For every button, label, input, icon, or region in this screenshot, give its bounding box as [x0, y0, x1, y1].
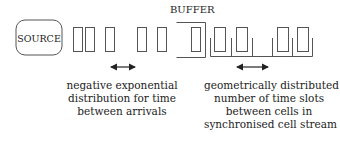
- cell: [86, 28, 95, 52]
- caption-line: synchronised cell stream: [204, 118, 334, 131]
- cell: [215, 28, 226, 52]
- cell: [74, 28, 83, 52]
- caption-line: negative exponential: [62, 79, 182, 92]
- caption-line: geometrically distributed: [204, 79, 334, 92]
- caption-slot-distribution: geometrically distributed number of time…: [204, 79, 334, 131]
- cell: [237, 28, 248, 52]
- arriving-cells: [74, 28, 167, 52]
- buffer-box: [177, 23, 206, 58]
- source-label: SOURCE: [17, 33, 61, 44]
- cell: [158, 28, 167, 52]
- caption-line: between cells in: [204, 105, 334, 118]
- cell: [138, 28, 147, 52]
- slot-stream: [211, 28, 313, 57]
- caption-interarrival: negative exponential distribution for ti…: [62, 79, 182, 118]
- cell: [278, 28, 289, 52]
- cell: [298, 28, 309, 52]
- source-node: SOURCE: [16, 20, 62, 55]
- caption-line: between arrivals: [62, 105, 182, 118]
- caption-line: number of time slots: [204, 92, 334, 105]
- cell: [106, 28, 115, 52]
- buffer-label: BUFFER: [170, 4, 215, 15]
- caption-line: distribution for time: [62, 92, 182, 105]
- cell: [192, 28, 201, 52]
